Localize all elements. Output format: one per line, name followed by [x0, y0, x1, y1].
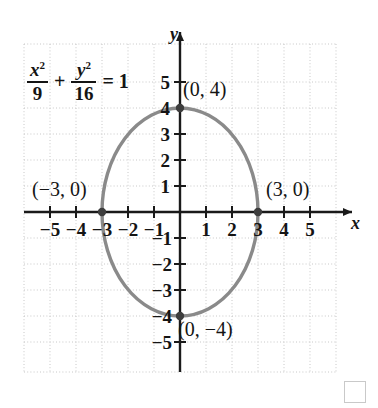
vertex-marker-left [98, 208, 106, 216]
x-tick-label: 4 [279, 219, 289, 240]
y-tick-label: −3 [152, 280, 172, 301]
x-axis-label: x [351, 213, 360, 234]
x-axis [24, 208, 352, 216]
fraction-x-term: x2 9 [27, 60, 48, 103]
fraction-x-numerator: x2 [27, 60, 48, 80]
equation-right-hand-side: = 1 [100, 70, 128, 93]
x-tick-label: −2 [118, 219, 138, 240]
point-label-top: (0, 4) [183, 78, 226, 101]
x-tick-label: 2 [227, 219, 237, 240]
y-tick-label: 4 [161, 98, 171, 119]
x-tick-label: −3 [92, 219, 112, 240]
ellipse-graph-figure: −5 −4 −3 −2 −1 1 2 3 4 5 5 4 3 2 1 −1 −2… [0, 0, 378, 408]
y-tick-label: 5 [161, 72, 171, 93]
y-tick-label: −4 [152, 306, 173, 327]
point-label-left: (−3, 0) [32, 178, 87, 201]
ellipse-equation: x2 9 + y2 16 = 1 [27, 60, 129, 103]
y-axis-label: y [170, 24, 178, 45]
y-tick-label: −5 [152, 332, 172, 353]
fraction-y-term: y2 16 [71, 60, 96, 103]
y-tick-label: 2 [161, 150, 171, 171]
y-tick-label: 3 [161, 124, 171, 145]
fraction-y-numerator: y2 [74, 60, 94, 80]
y-tick-label: 1 [161, 176, 171, 197]
vertex-marker-right [254, 208, 262, 216]
answer-checkbox[interactable] [344, 381, 366, 403]
x-tick-label: 5 [305, 219, 315, 240]
x-tick-label: 3 [253, 219, 263, 240]
x-tick-label: −5 [40, 219, 60, 240]
y-tick-label: −1 [152, 228, 172, 249]
point-label-right: (3, 0) [266, 178, 309, 201]
y-tick-label: −2 [152, 254, 172, 275]
vertex-marker-top [176, 104, 184, 112]
plus-operator: + [52, 70, 67, 93]
fraction-y-denominator: 16 [71, 84, 96, 103]
fraction-x-denominator: 9 [30, 84, 46, 103]
point-label-bottom: (0, −4) [178, 318, 233, 341]
x-tick-labels: −5 −4 −3 −2 −1 1 2 3 4 5 [40, 219, 315, 240]
x-tick-label: 1 [201, 219, 211, 240]
x-tick-label: −4 [66, 219, 87, 240]
